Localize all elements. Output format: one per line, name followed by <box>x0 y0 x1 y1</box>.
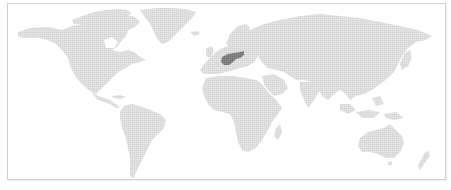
region-south-america[interactable] <box>120 104 166 178</box>
region-greenland[interactable] <box>140 8 196 44</box>
world-map[interactable] <box>0 0 451 190</box>
region-central-america[interactable] <box>92 92 120 108</box>
region-north-america[interactable] <box>18 14 146 94</box>
region-australia[interactable] <box>358 124 404 158</box>
